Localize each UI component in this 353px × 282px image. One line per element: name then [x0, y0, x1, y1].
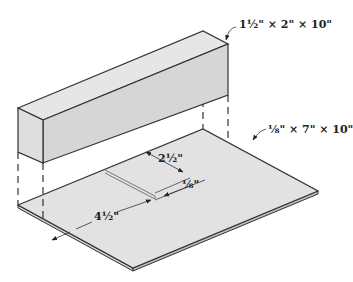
slot-offset-label: 4½"	[94, 211, 119, 222]
block-dimensions-label: 1½" × 2" × 10"	[239, 19, 332, 30]
slot-width-label: ⅛"	[182, 179, 199, 190]
leader-arrows	[226, 27, 266, 140]
plate-dimensions-label: ⅛" × 7" × 10"	[268, 124, 353, 135]
slot-length-label: 2½"	[158, 153, 183, 164]
